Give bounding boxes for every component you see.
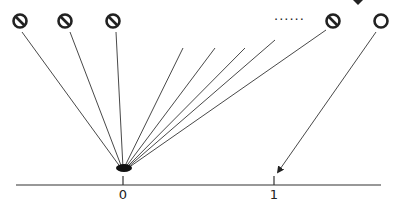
cropped-marker-icon [353, 0, 363, 5]
open-circle-icon [375, 15, 388, 28]
tick-label-zero: 0 [119, 187, 127, 202]
tick-label-one: 1 [270, 187, 278, 202]
prohibited-circle-icon [59, 15, 72, 28]
ellipsis-dots: ...... [274, 8, 305, 23]
convergence-cluster [116, 164, 132, 172]
converging-lines [22, 30, 326, 168]
prohibited-circle-icon [107, 15, 120, 28]
prohibited-circle-icon [14, 15, 27, 28]
prohibited-circle-icon [327, 15, 340, 28]
diagram-canvas [0, 0, 402, 202]
